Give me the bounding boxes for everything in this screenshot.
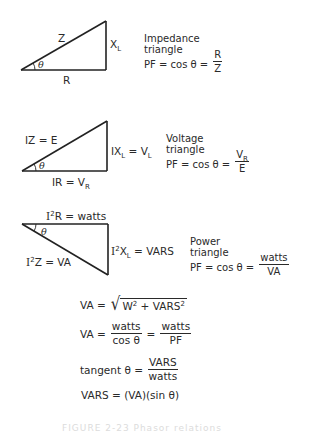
va-sqrt-plus: + VARS: [137, 300, 180, 312]
impedance-title-2: triangle: [144, 44, 222, 55]
voltage-vert-a: IX: [111, 145, 121, 157]
power-hyp-b: Z = VA: [35, 256, 71, 268]
voltage-pf-fraction: VR E: [235, 149, 249, 174]
va-sqrt-formula: VA = √ W2 + VARS2: [80, 297, 187, 312]
voltage-vert-label: IXL = VL: [111, 145, 152, 157]
tangent-frac: VARS watts: [148, 357, 178, 382]
power-top-b: R = watts: [55, 210, 107, 222]
voltage-triangle: [22, 121, 107, 171]
impedance-title-1: Impedance: [144, 33, 222, 44]
figure-caption: FIGURE 2-23 Phasor relations: [62, 423, 222, 433]
impedance-triangle: [21, 21, 106, 70]
power-vert-label: I2XL = VARS: [111, 245, 174, 257]
va-sqrt-sup2: 2: [180, 300, 184, 308]
power-title-1: Power: [190, 236, 289, 247]
voltage-vert-b-sub: L: [148, 152, 152, 160]
tangent-num: VARS: [148, 357, 178, 370]
impedance-hyp-label: Z: [58, 32, 65, 44]
impedance-pf-num: R: [213, 49, 222, 62]
va-sqrt-w: W: [122, 300, 132, 312]
voltage-title-1: Voltage: [166, 133, 249, 144]
sqrt-radicand: W2 + VARS2: [120, 298, 186, 312]
voltage-base-label: IR = VR: [52, 176, 90, 188]
vars-formula-text: VARS = (VA)(sin θ): [81, 389, 179, 401]
va-frac-eq: =: [147, 328, 156, 340]
impedance-vert-sub: L: [117, 45, 121, 53]
sqrt-icon: √: [111, 296, 121, 314]
power-caption-block: Power triangle PF = cos θ = watts VA: [190, 236, 289, 277]
va-fraction-formula: VA = watts cos θ = watts PF: [80, 321, 191, 346]
va-frac-prefix: VA =: [80, 328, 106, 340]
voltage-pf-num: VR: [235, 149, 249, 162]
va-frac1-den: cos θ: [112, 334, 139, 346]
voltage-base-main: IR = V: [52, 176, 85, 188]
power-hyp-label: I2Z = VA: [26, 256, 71, 268]
impedance-pf-fraction: R Z: [213, 49, 222, 74]
tangent-den: watts: [148, 370, 177, 382]
voltage-hyp-label: IZ = E: [25, 134, 57, 146]
va-frac2: watts PF: [160, 321, 191, 346]
va-frac2-den: PF: [170, 334, 182, 346]
voltage-caption-block: Voltage triangle PF = cos θ = VR E: [166, 133, 249, 174]
power-vert-b: X: [120, 245, 127, 257]
power-pf-num: watts: [259, 252, 288, 265]
tangent-formula: tangent θ = VARS watts: [80, 357, 178, 382]
power-vert-c: = VARS: [131, 245, 174, 257]
power-top-label: I2R = watts: [46, 210, 106, 222]
vars-formula: VARS = (VA)(sin θ): [81, 389, 179, 401]
voltage-pf-formula: PF = cos θ = VR E: [166, 155, 249, 174]
impedance-pf-formula: PF = cos θ = R Z: [144, 55, 222, 74]
tangent-prefix: tangent θ =: [80, 364, 143, 376]
impedance-vert-label: XL: [110, 38, 121, 50]
power-pf-formula: PF = cos θ = watts VA: [190, 258, 289, 277]
voltage-angle-label: θ: [39, 160, 45, 172]
impedance-pf-prefix: PF = cos θ =: [144, 59, 208, 70]
voltage-pf-prefix: PF = cos θ =: [166, 159, 230, 170]
power-angle-label: θ: [41, 226, 47, 238]
power-pf-den: VA: [267, 265, 280, 277]
power-pf-fraction: watts VA: [259, 252, 288, 277]
voltage-pf-den: E: [239, 162, 245, 174]
impedance-base-label: R: [63, 74, 70, 86]
impedance-angle-label: θ: [38, 59, 44, 71]
va-sqrt-prefix: VA =: [80, 299, 106, 311]
voltage-vert-b: = V: [125, 145, 148, 157]
va-frac1-num: watts: [111, 321, 142, 334]
va-frac2-num: watts: [160, 321, 191, 334]
va-frac1: watts cos θ: [111, 321, 142, 346]
power-pf-prefix: PF = cos θ =: [190, 262, 254, 273]
sqrt-expression: √ W2 + VARS2: [111, 297, 187, 312]
impedance-caption-block: Impedance triangle PF = cos θ = R Z: [144, 33, 222, 74]
voltage-base-sub: R: [85, 183, 90, 191]
impedance-pf-den: Z: [214, 62, 221, 74]
